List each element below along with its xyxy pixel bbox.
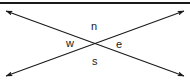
diagram-canvas — [0, 0, 190, 83]
region-label-w: w — [66, 38, 74, 49]
region-label-n: n — [91, 21, 97, 32]
region-label-s: s — [92, 56, 98, 67]
region-label-e: e — [116, 39, 122, 50]
angle-diagram: n w e s — [0, 0, 190, 83]
